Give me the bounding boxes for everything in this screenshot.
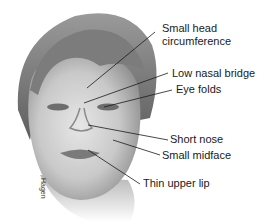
label-small-head: Small head circumference	[162, 22, 231, 48]
label-thin-upper-lip: Thin upper lip	[143, 177, 210, 190]
right-eye	[97, 104, 119, 111]
label-eye-folds: Eye folds	[176, 83, 221, 96]
left-eye	[47, 104, 69, 111]
label-low-nasal-bridge: Low nasal bridge	[172, 67, 255, 80]
face-diagram: Small head circumference Low nasal bridg…	[0, 0, 265, 222]
artist-signature: Hagen	[40, 178, 47, 199]
label-small-midface: Small midface	[162, 149, 231, 162]
label-short-nose: Short nose	[170, 133, 223, 146]
